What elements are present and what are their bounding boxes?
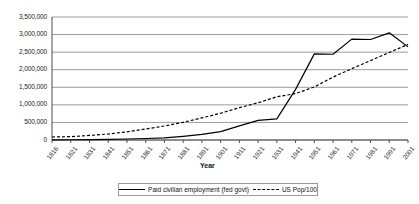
series-line <box>52 33 408 140</box>
legend-dashed-line-icon <box>253 189 279 190</box>
legend-label: US Pop/100 <box>282 186 317 193</box>
plot-area <box>0 0 419 204</box>
data-series <box>52 33 408 140</box>
gridlines <box>52 17 408 140</box>
chart-container: 3,500,0003,000,0002,500,0002,000,0001,50… <box>0 0 419 204</box>
legend-label: Paid civilian employment (fed govt) <box>148 186 249 193</box>
legend-entry: US Pop/100 <box>253 186 317 193</box>
chart-legend: Paid civilian employment (fed govt)US Po… <box>118 183 318 196</box>
legend-entry: Paid civilian employment (fed govt) <box>119 186 249 193</box>
x-axis-title: Year <box>200 162 215 169</box>
legend-solid-line-icon <box>119 189 145 190</box>
series-line <box>52 44 408 137</box>
